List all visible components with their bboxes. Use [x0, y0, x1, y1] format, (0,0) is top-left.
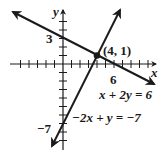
tick-label-3: 3	[46, 31, 53, 46]
line-x-plus-2y-eq-6	[13, 12, 154, 84]
equation-label-1: x + 2y = 6	[98, 87, 153, 102]
coordinate-plane: y x 3 −7 6 (4, 1) x + 2y = 6 −2x + y = −…	[0, 0, 164, 160]
equation-label-2: −2x + y = −7	[72, 110, 141, 125]
point-label: (4, 1)	[103, 43, 131, 58]
tick-label-neg7: −7	[37, 121, 51, 136]
tick-label-6: 6	[110, 72, 117, 87]
x-axis-label: x	[150, 65, 158, 80]
intersection-point	[94, 52, 101, 59]
y-axis-label: y	[51, 4, 59, 19]
